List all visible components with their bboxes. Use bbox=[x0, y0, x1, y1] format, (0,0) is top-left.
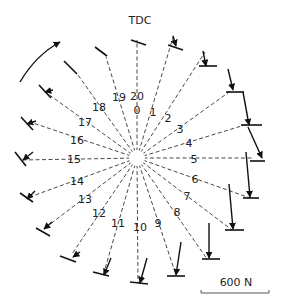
scale-label: 600 N bbox=[220, 276, 253, 289]
label-10: 10 bbox=[133, 221, 147, 234]
label-19: 19 bbox=[112, 91, 126, 104]
label-2: 2 bbox=[165, 112, 172, 125]
label-9: 9 bbox=[155, 217, 162, 230]
center-hub bbox=[129, 150, 145, 166]
label-11: 11 bbox=[111, 217, 125, 230]
label-17: 17 bbox=[78, 116, 92, 129]
label-4: 4 bbox=[186, 137, 193, 150]
label-1: 1 bbox=[150, 106, 157, 119]
tdc-force-polar-diagram: TDC 20 0 1 2 3 4 5 6 7 8 9 10 11 bbox=[0, 0, 281, 305]
label-20: 20 bbox=[130, 90, 144, 103]
label-3: 3 bbox=[177, 123, 184, 136]
label-16: 16 bbox=[70, 134, 84, 147]
label-14: 14 bbox=[70, 175, 84, 188]
scale-bar: 600 N bbox=[201, 276, 269, 293]
rotation-direction-arrow bbox=[20, 42, 60, 82]
label-7: 7 bbox=[184, 190, 191, 203]
label-18: 18 bbox=[92, 101, 106, 114]
label-8: 8 bbox=[174, 206, 181, 219]
label-13: 13 bbox=[78, 193, 92, 206]
label-12: 12 bbox=[92, 207, 106, 220]
label-15: 15 bbox=[67, 153, 81, 166]
tdc-label: TDC bbox=[128, 14, 152, 27]
label-0: 0 bbox=[134, 104, 141, 117]
label-5: 5 bbox=[191, 153, 198, 166]
label-6: 6 bbox=[192, 173, 199, 186]
